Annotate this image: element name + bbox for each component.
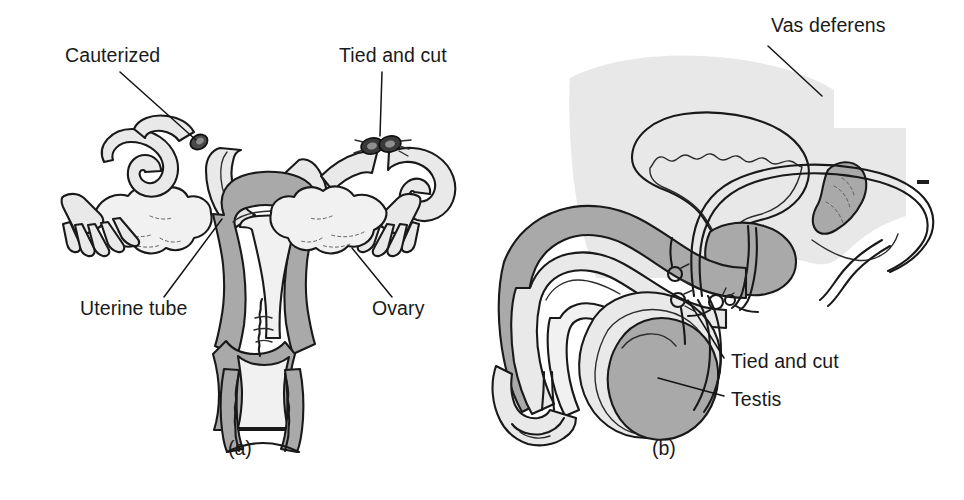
panel-a-female-tract xyxy=(0,0,482,500)
edge-dash-artifact xyxy=(917,180,929,184)
female-reproductive-tract-illustration xyxy=(0,0,482,500)
label-cauterized: Cauterized xyxy=(65,46,160,66)
left-uterine-tube xyxy=(102,116,210,197)
label-ovary: Ovary xyxy=(372,299,425,319)
label-uterine-tube: Uterine tube xyxy=(80,299,187,319)
caption-panel-a: (a) xyxy=(228,437,252,460)
label-tied-and-cut-a: Tied and cut xyxy=(339,46,447,66)
anatomy-figure: Cauterized Tied and cut Uterine tube Ova… xyxy=(0,0,964,500)
leader-ovary xyxy=(352,248,392,297)
label-testis: Testis xyxy=(731,390,781,410)
label-tied-and-cut-b: Tied and cut xyxy=(731,352,839,372)
label-vas-deferens: Vas deferens xyxy=(771,16,886,36)
caption-panel-b: (b) xyxy=(652,437,676,460)
leader-tied-and-cut xyxy=(380,72,382,136)
panel-b-male-tract xyxy=(482,0,964,500)
male-reproductive-tract-illustration xyxy=(482,0,964,500)
